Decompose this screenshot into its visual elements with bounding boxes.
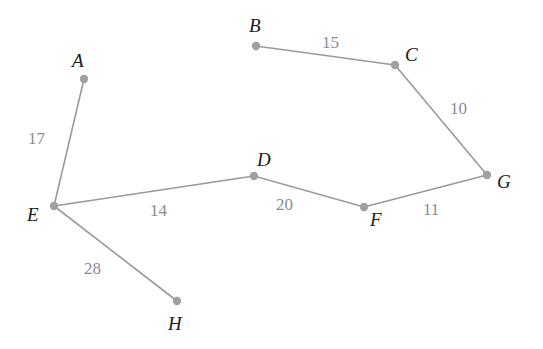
node-H [173,297,181,305]
edges-group [54,46,487,301]
node-labels-group: ABCDEFGH [26,15,511,334]
edge-weight-F-G: 11 [423,200,439,219]
node-label-E: E [26,204,39,225]
node-A [80,75,88,83]
node-label-C: C [405,44,418,65]
edge-weight-E-H: 28 [84,259,101,278]
node-B [252,42,260,50]
node-G [483,171,491,179]
edge-weight-C-G: 10 [450,99,467,118]
edge-weight-A-E: 17 [28,129,46,148]
node-label-F: F [369,209,382,230]
edge-weight-D-F: 20 [276,195,293,214]
node-label-A: A [70,50,84,71]
graph-diagram: 17151014201128 ABCDEFGH [0,0,543,349]
node-label-G: G [497,171,511,192]
edge-C-G [395,65,487,175]
edge-weight-E-D: 14 [150,201,168,220]
node-C [391,61,399,69]
node-E [50,202,58,210]
node-D [250,172,258,180]
node-F [360,203,368,211]
node-label-B: B [249,15,261,36]
edge-E-H [54,206,177,301]
node-label-D: D [256,149,271,170]
nodes-group [50,42,491,305]
node-label-H: H [167,313,183,334]
edge-A-E [54,79,84,206]
edge-weight-B-C: 15 [322,33,339,52]
edge-D-F [254,176,364,207]
edge-weights-group: 17151014201128 [28,33,467,278]
